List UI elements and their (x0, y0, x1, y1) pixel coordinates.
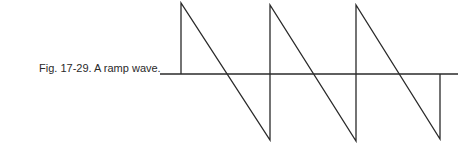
ramp-wave-diagram (0, 0, 474, 145)
ramp-waveform (181, 3, 440, 141)
